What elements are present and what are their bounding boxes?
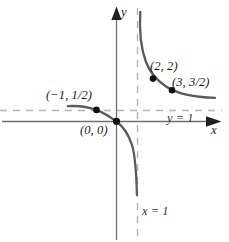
plot-canvas [0,0,229,242]
vertical-asymptote-label: x = 1 [142,205,168,218]
point-marker-2-2 [150,75,157,82]
point-label-2-2: (2, 2) [150,60,178,73]
point-label-origin: (0, 0) [80,124,108,137]
x-axis-label: x [211,124,217,137]
point-label-neg1-half: (−1, 1/2) [46,89,92,102]
graph-figure: (2, 2) (3, 3/2) (−1, 1/2) (0, 0) y x y =… [0,0,229,242]
curve-lower-branch [117,122,137,196]
point-label-3-three-halves: (3, 3/2) [172,76,210,89]
y-axis-label: y [121,6,127,19]
curve-left-branch [68,106,117,121]
point-marker-neg1-half [93,107,100,114]
horizontal-asymptote-label: y = 1 [167,112,193,125]
point-marker-origin [113,118,120,125]
